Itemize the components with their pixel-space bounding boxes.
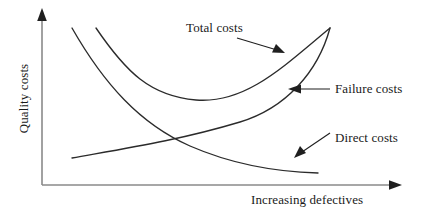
annotation-direct-costs: Direct costs xyxy=(335,131,398,144)
x-axis-label: Increasing defectives xyxy=(251,193,363,206)
x-axis-arrowhead-icon xyxy=(389,180,402,190)
annotation-failure-costs: Failure costs xyxy=(335,82,402,95)
quality-costs-figure: Quality costs Increasing defectives Tota… xyxy=(0,0,428,215)
y-axis-label: Quality costs xyxy=(17,53,30,145)
y-axis-arrowhead-icon xyxy=(37,8,47,21)
leader-line-direct-costs xyxy=(302,133,330,152)
annotation-total-costs: Total costs xyxy=(186,21,243,34)
leader-arrowhead-total-costs-icon xyxy=(272,44,285,53)
leader-line-total-costs xyxy=(237,38,277,50)
leader-arrowhead-direct-costs-icon xyxy=(294,146,306,158)
leader-arrowhead-failure-costs-icon xyxy=(288,85,301,94)
